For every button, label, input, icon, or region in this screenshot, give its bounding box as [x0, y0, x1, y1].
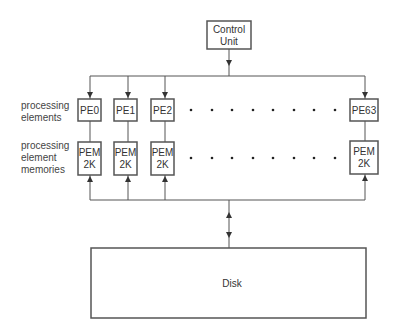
arrow-down-icon — [226, 232, 232, 238]
pem1-label-1: PEM — [115, 147, 137, 158]
pem0-label-1: PEM — [79, 147, 101, 158]
arrow-down-icon — [87, 92, 93, 98]
row-label-line: processing — [21, 100, 69, 112]
arrow-down-icon — [125, 92, 131, 98]
row-label-line: element — [21, 152, 69, 164]
row-label-line: processing — [21, 140, 69, 152]
pe2-label: PE2 — [153, 105, 172, 116]
row-label-processing-elements: processing elements — [21, 100, 69, 124]
pe1-label: PE1 — [116, 105, 135, 116]
row-label-memories: processing element memories — [21, 140, 69, 176]
pem1-label-2: 2K — [119, 159, 132, 170]
arrow-up-icon — [162, 176, 168, 182]
row-label-line: elements — [21, 112, 69, 124]
arrow-down-icon — [162, 92, 168, 98]
pem63-label-1: PEM — [353, 146, 375, 157]
row-label-line: memories — [21, 164, 69, 176]
pe-ellipsis — [190, 109, 337, 112]
arrow-down-icon — [226, 60, 232, 66]
pe63-label: PE63 — [352, 105, 377, 116]
disk-label: Disk — [222, 278, 242, 289]
pem63-label-2: 2K — [358, 158, 371, 169]
arrow-up-icon — [125, 176, 131, 182]
control-unit-label-1: Control — [213, 24, 245, 35]
pem2-label-2: 2K — [156, 159, 169, 170]
pe0-label: PE0 — [80, 105, 99, 116]
arrow-up-icon — [362, 175, 368, 181]
arrow-up-icon — [226, 212, 232, 218]
pem-ellipsis — [190, 157, 337, 160]
pem2-label-1: PEM — [152, 147, 174, 158]
arrow-up-icon — [87, 176, 93, 182]
arrow-down-icon — [362, 92, 368, 98]
control-unit-label-2: Unit — [220, 36, 238, 47]
pem0-label-2: 2K — [83, 159, 96, 170]
